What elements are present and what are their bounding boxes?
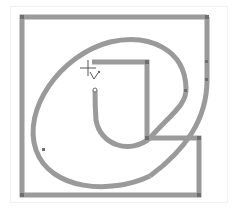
anchor-point[interactable]	[205, 60, 208, 63]
anchor-point[interactable]	[184, 89, 187, 92]
anchor-point[interactable]	[197, 136, 201, 140]
anchor-point[interactable]	[20, 15, 24, 19]
anchor-point[interactable]	[205, 15, 209, 19]
anchor-point[interactable]	[42, 148, 45, 151]
anchor-point[interactable]	[197, 193, 201, 197]
vector-artwork[interactable]	[0, 0, 234, 212]
anchor-point[interactable]	[145, 60, 149, 64]
anchor-point[interactable]	[145, 136, 149, 140]
path-endpoint[interactable]	[93, 88, 97, 92]
anchor-point[interactable]	[205, 78, 208, 81]
anchor-point[interactable]	[20, 193, 24, 197]
